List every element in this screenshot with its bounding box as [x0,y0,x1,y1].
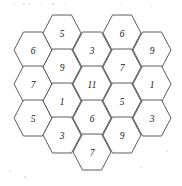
hex-cell-group: 6755913311676759913 [14,15,171,170]
hex-cell-value: 9 [120,131,125,141]
hex-cell-value: 5 [31,114,36,124]
hex-cell-value: 6 [120,29,125,39]
hex-cell-value: 5 [120,97,125,107]
hex-cell-value: 6 [31,46,36,56]
hex-cell-value: 5 [60,29,65,39]
hex-grid-figure: 6755913311676759913 [0,0,182,186]
hex-cell-value: 3 [149,114,155,124]
hex-cell-value: 9 [150,46,155,56]
hex-cell-value: 6 [90,114,95,124]
hex-grid-canvas: 6755913311676759913 [0,0,182,186]
hex-cell-value: 3 [89,46,95,56]
hex-cell-value: 1 [60,97,65,107]
hex-cell-value: 9 [60,63,65,73]
hex-cell-value: 11 [88,80,97,90]
hex-cell-value: 3 [59,131,65,141]
hex-cell-value: 1 [150,80,155,90]
